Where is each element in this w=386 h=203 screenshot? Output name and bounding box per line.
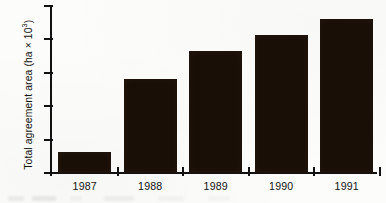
x-axis-label: 1987: [52, 180, 118, 192]
y-axis-tick: [44, 72, 53, 74]
x-axis-tick: [379, 167, 381, 176]
x-axis-tick: [50, 167, 52, 176]
x-axis-tick: [313, 167, 315, 176]
y-axis-tick: [44, 5, 53, 7]
bar: [124, 79, 177, 173]
bar-chart: Total agreement area (ha × 103) 05010015…: [0, 0, 386, 203]
y-axis-title: Total agreement area (ha × 103): [20, 10, 33, 180]
bar: [255, 35, 308, 173]
y-axis-title-base: Total agreement area (ha × 10: [23, 27, 34, 169]
y-axis-line: [50, 5, 52, 174]
bar: [58, 152, 111, 173]
y-axis-tick: [44, 139, 53, 141]
y-axis-tick: [44, 38, 53, 40]
x-axis-tick: [248, 167, 250, 176]
x-axis-label: 1989: [183, 180, 249, 192]
bar: [189, 51, 242, 173]
y-axis-title-tail: ): [23, 20, 34, 24]
caption-artifact: [8, 196, 258, 201]
x-axis-tick: [117, 167, 119, 176]
y-axis-title-exponent: 3: [20, 23, 29, 27]
x-axis-label: 1991: [314, 180, 380, 192]
bar: [320, 19, 373, 173]
x-axis-label: 1988: [118, 180, 184, 192]
y-axis-tick: [44, 105, 53, 107]
x-axis-label: 1990: [249, 180, 315, 192]
x-axis-tick: [182, 167, 184, 176]
